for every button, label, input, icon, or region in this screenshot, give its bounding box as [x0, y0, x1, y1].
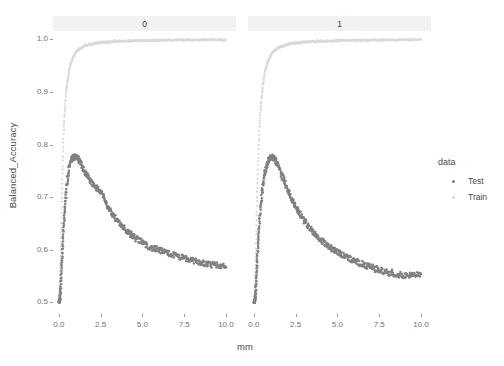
facet-strip-1-label: 1: [337, 19, 342, 29]
x-tick-label: 2.5: [283, 320, 309, 329]
x-tick-mark: [337, 314, 338, 317]
y-tick-label: 0.9: [22, 87, 48, 96]
y-tick-label: 0.8: [22, 140, 48, 149]
series-train-points: [253, 38, 422, 304]
x-tick-mark: [421, 314, 422, 317]
x-tick-label: 7.5: [366, 320, 392, 329]
x-tick-mark: [184, 314, 185, 317]
x-tick-mark: [296, 314, 297, 317]
x-tick-mark: [379, 314, 380, 317]
legend-title: data: [438, 157, 500, 167]
series-test-points: [57, 153, 227, 303]
y-tick-label: 0.7: [22, 192, 48, 201]
x-tick-mark: [59, 314, 60, 317]
legend-item-train[interactable]: Train: [438, 189, 500, 205]
legend-label-train: Train: [468, 192, 487, 202]
y-tick-label: 1.0: [22, 34, 48, 43]
x-tick-mark: [142, 314, 143, 317]
legend-label-test: Test: [468, 176, 484, 186]
chart-canvas: Balanced_Accuracy 0.50.60.70.80.91.0 0 1…: [0, 0, 504, 366]
y-tick-label: 0.6: [22, 245, 48, 254]
facet-strip-0: 0: [53, 16, 236, 31]
facet-strip-0-label: 0: [142, 19, 147, 29]
legend-item-test[interactable]: Test: [438, 173, 500, 189]
x-tick-mark: [101, 314, 102, 317]
x-tick-label: 10.0: [213, 320, 239, 329]
legend: data Test Train: [438, 157, 500, 205]
x-tick-mark: [254, 314, 255, 317]
series-test-points: [253, 153, 423, 304]
panel-series-1: [248, 33, 431, 314]
legend-key-train-icon: [445, 189, 461, 205]
panel-series-0: [53, 33, 236, 314]
legend-key-test-icon: [445, 173, 461, 189]
x-tick-mark: [226, 314, 227, 317]
facet-panel-0: [53, 33, 236, 314]
x-tick-label: 2.5: [88, 320, 114, 329]
facet-panel-1: [248, 33, 431, 314]
x-tick-label: 10.0: [408, 320, 434, 329]
x-tick-label: 5.0: [129, 320, 155, 329]
x-tick-label: 0.0: [241, 320, 267, 329]
y-tick-label: 0.5: [22, 297, 48, 306]
y-axis-title: Balanced_Accuracy: [7, 106, 18, 226]
facet-strip-1: 1: [248, 16, 431, 31]
x-tick-label: 5.0: [324, 320, 350, 329]
x-axis-title: mm: [215, 341, 275, 352]
x-tick-label: 7.5: [171, 320, 197, 329]
x-tick-label: 0.0: [46, 320, 72, 329]
